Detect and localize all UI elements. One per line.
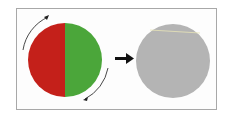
- gray-disk: [136, 24, 210, 98]
- green-half: [65, 22, 103, 98]
- diagram-canvas: [0, 0, 228, 116]
- red-green-disk: [27, 22, 103, 98]
- right-arrow-icon: [115, 53, 134, 64]
- red-half: [27, 22, 65, 98]
